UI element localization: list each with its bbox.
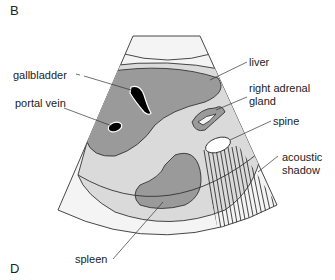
panel-label-d: D xyxy=(10,261,19,276)
label-right-adrenal-2: gland xyxy=(249,95,276,107)
label-spine: spine xyxy=(273,115,299,127)
label-liver: liver xyxy=(249,56,270,68)
label-right-adrenal-1: right adrenal xyxy=(249,82,310,94)
acoustic-shadow-leader xyxy=(258,156,278,172)
label-spleen: spleen xyxy=(75,253,107,265)
label-portal-vein: portal vein xyxy=(15,97,66,109)
label-acoustic-1: acoustic xyxy=(282,151,323,163)
panel-label-b: B xyxy=(10,3,19,18)
label-gallbladder: gallbladder xyxy=(13,69,67,81)
ultrasound-sector xyxy=(30,36,320,235)
ultrasound-diagram: B D xyxy=(0,0,335,280)
label-acoustic-2: shadow xyxy=(282,164,320,176)
